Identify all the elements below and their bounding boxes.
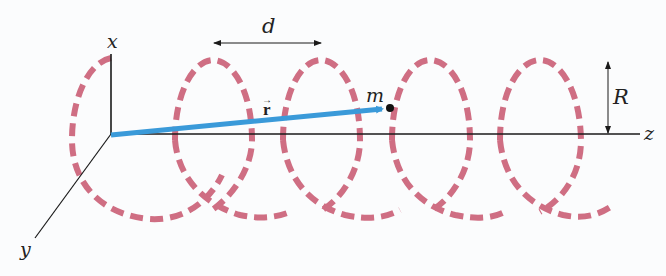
position-vector-arrow-accent: → <box>262 94 272 105</box>
x-axis-label: x <box>107 30 118 52</box>
mass-point <box>386 104 394 112</box>
helix-curve <box>72 58 612 219</box>
radius-label: R <box>612 85 629 109</box>
helix-diagram: x y z d R m r → <box>0 0 666 276</box>
y-axis-label: y <box>19 238 31 260</box>
pitch-label: d <box>262 14 275 38</box>
position-vector-arrow <box>111 109 382 135</box>
mass-label: m <box>366 84 384 106</box>
z-axis-label: z <box>643 122 655 144</box>
